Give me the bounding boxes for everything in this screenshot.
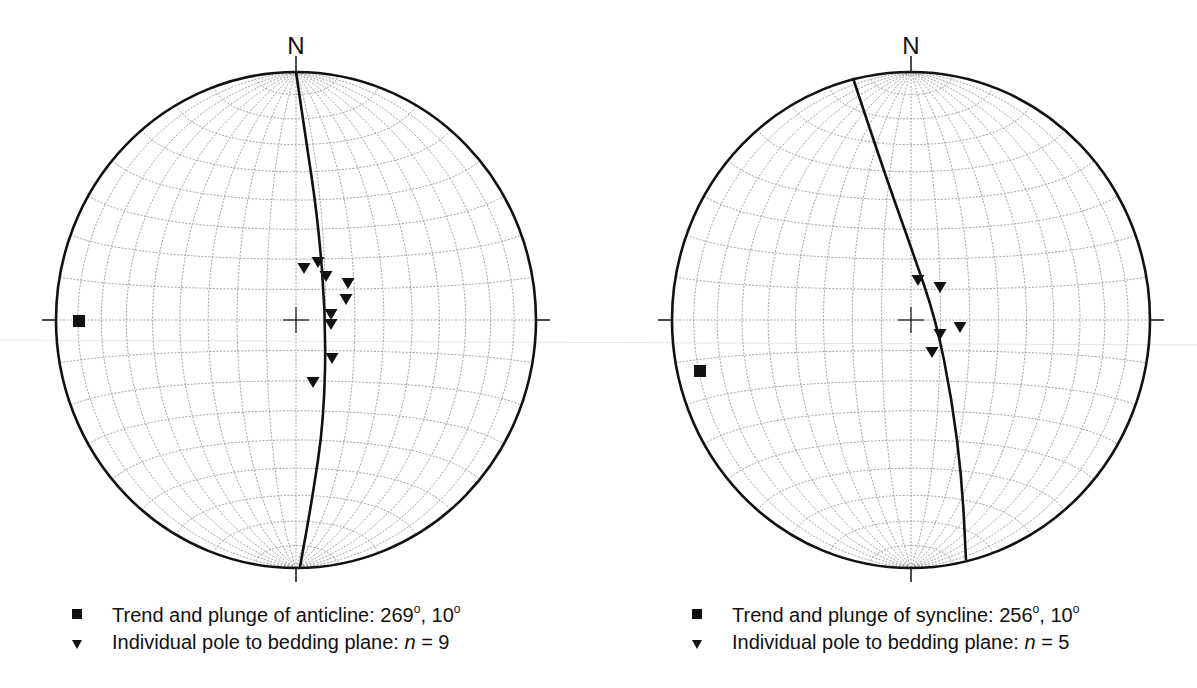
- pole-to-bedding-marker: [342, 278, 355, 289]
- legend-item-poles: Individual pole to bedding plane: n = 9: [68, 629, 460, 656]
- pole-to-bedding-marker: [934, 282, 947, 293]
- legend-item-poles: Individual pole to bedding plane: n = 5: [688, 629, 1079, 656]
- figure-canvas: N N: [0, 0, 1197, 688]
- legend-anticline: Trend and plunge of anticline: 269o, 10o…: [68, 596, 460, 656]
- parallel-gridline: [728, 440, 1094, 479]
- legend-item-fold-axis: Trend and plunge of anticline: 269o, 10o: [68, 596, 460, 629]
- legend-text: Trend and plunge of syncline: 256: [732, 604, 1033, 626]
- triangle-marker-icon: [72, 640, 82, 649]
- square-marker-icon: [72, 609, 82, 619]
- parallel-gridline: [112, 440, 480, 479]
- north-label-left: N: [287, 32, 304, 59]
- meridian-gridline: [296, 72, 466, 568]
- legend-item-fold-axis: Trend and plunge of syncline: 256o, 10o: [688, 596, 1079, 629]
- pole-to-bedding-marker: [298, 263, 311, 274]
- north-label-right: N: [902, 32, 919, 59]
- stereonet-anticline: [42, 56, 550, 582]
- pole-to-bedding-marker: [926, 347, 939, 358]
- legend-text: Trend and plunge of anticline: 269: [112, 604, 414, 626]
- pole-to-bedding-marker: [325, 319, 338, 330]
- fold-axis-marker: [73, 315, 85, 327]
- pole-to-bedding-marker: [340, 294, 353, 305]
- pole-to-bedding-marker: [954, 322, 967, 333]
- parallel-gridline: [870, 76, 953, 95]
- pole-to-bedding-marker: [307, 377, 320, 388]
- legend-text: Individual pole to bedding plane:: [732, 631, 1024, 653]
- square-marker-icon: [692, 609, 702, 619]
- pole-to-bedding-marker: [934, 329, 947, 340]
- legend-text: Individual pole to bedding plane:: [112, 631, 404, 653]
- stereonet-syncline: [658, 56, 1164, 582]
- pole-to-bedding-marker: [325, 309, 338, 320]
- fold-axis-marker: [694, 365, 706, 377]
- girdle-great-circle: [853, 78, 966, 560]
- scan-artifact-line: [0, 340, 1197, 345]
- legend-syncline: Trend and plunge of syncline: 256o, 10o …: [688, 596, 1079, 656]
- triangle-marker-icon: [692, 640, 702, 649]
- pole-to-bedding-marker: [326, 353, 339, 364]
